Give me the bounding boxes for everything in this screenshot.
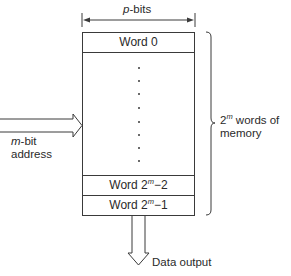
word-second-last-suffix: −2 [154,178,168,192]
address-line2: address [11,148,52,161]
address-input-arrow-icon [0,114,82,137]
word-second-last-prefix: Word 2 [109,178,147,192]
word-0-cell: Word 0 [82,36,195,49]
memory-size-brace [206,32,215,215]
ellipsis-dots [138,67,140,162]
data-output-text: Data output [152,256,211,268]
word-last-suffix: −1 [154,198,168,212]
address-var: m [11,135,21,147]
width-text: -bits [129,3,151,15]
address-line1: -bit [21,135,37,147]
word-last-cell: Word 2m−1 [82,199,195,212]
memory-line1: words of [233,114,280,126]
width-label: p-bits [123,3,151,16]
word-second-last-cell: Word 2m−2 [82,179,195,192]
word-last-prefix: Word 2 [109,198,147,212]
memory-size-label: 2m words of memory [220,114,279,140]
memory-line2: memory [220,127,279,140]
word-0-label: Word 0 [119,35,157,49]
address-label: m-bit address [11,135,52,161]
data-output-arrow-icon [128,216,149,265]
data-output-label: Data output [152,256,211,269]
